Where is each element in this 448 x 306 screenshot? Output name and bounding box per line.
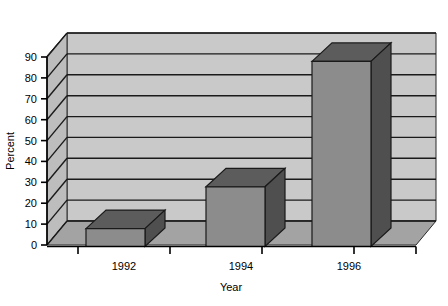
y-tick-label: 30 bbox=[25, 176, 37, 188]
bar-front-face bbox=[312, 61, 371, 246]
bar-1994 bbox=[206, 168, 285, 246]
y-tick-label: 10 bbox=[25, 218, 37, 230]
y-tick-label: 90 bbox=[25, 51, 37, 63]
y-tick-label: 50 bbox=[25, 135, 37, 147]
chart-root: 0 10 20 30 40 50 60 70 80 90 Percent bbox=[0, 0, 448, 306]
x-tick-label-1992: 1992 bbox=[112, 260, 136, 272]
x-tick-label-1996: 1996 bbox=[337, 260, 361, 272]
bar-1996 bbox=[312, 43, 391, 247]
y-tick-label: 40 bbox=[25, 155, 37, 167]
y-tick-label: 80 bbox=[25, 72, 37, 84]
x-axis-title: Year bbox=[220, 281, 243, 293]
bar-side-face bbox=[371, 43, 391, 247]
bar-chart-3d: 0 10 20 30 40 50 60 70 80 90 Percent bbox=[0, 0, 448, 306]
bar-front-face bbox=[206, 187, 265, 247]
y-tick-label: 20 bbox=[25, 197, 37, 209]
y-tick-label: 60 bbox=[25, 114, 37, 126]
y-axis-title: Percent bbox=[4, 132, 16, 170]
x-tick-label-1994: 1994 bbox=[229, 260, 253, 272]
left-wall bbox=[47, 33, 67, 245]
bar-front-face bbox=[86, 229, 145, 247]
y-tick-label: 0 bbox=[31, 239, 37, 251]
y-tick-label: 70 bbox=[25, 93, 37, 105]
